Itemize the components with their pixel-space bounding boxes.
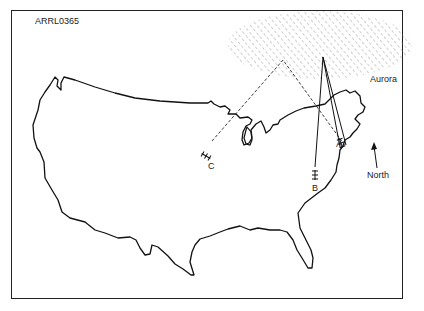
station-b-antenna-icon [312, 170, 318, 180]
figure-id-label: ARRL0365 [35, 16, 79, 26]
north-arrow-icon [371, 142, 377, 168]
station-a-label: A [336, 139, 342, 149]
north-label: North [367, 170, 389, 180]
us-map-diagram [0, 0, 424, 311]
station-c-antenna-icon [200, 151, 212, 161]
station-c-label: C [208, 161, 215, 171]
station-b-label: B [312, 183, 318, 193]
aurora-region [228, 11, 412, 79]
aurora-label: Aurora [370, 74, 397, 84]
